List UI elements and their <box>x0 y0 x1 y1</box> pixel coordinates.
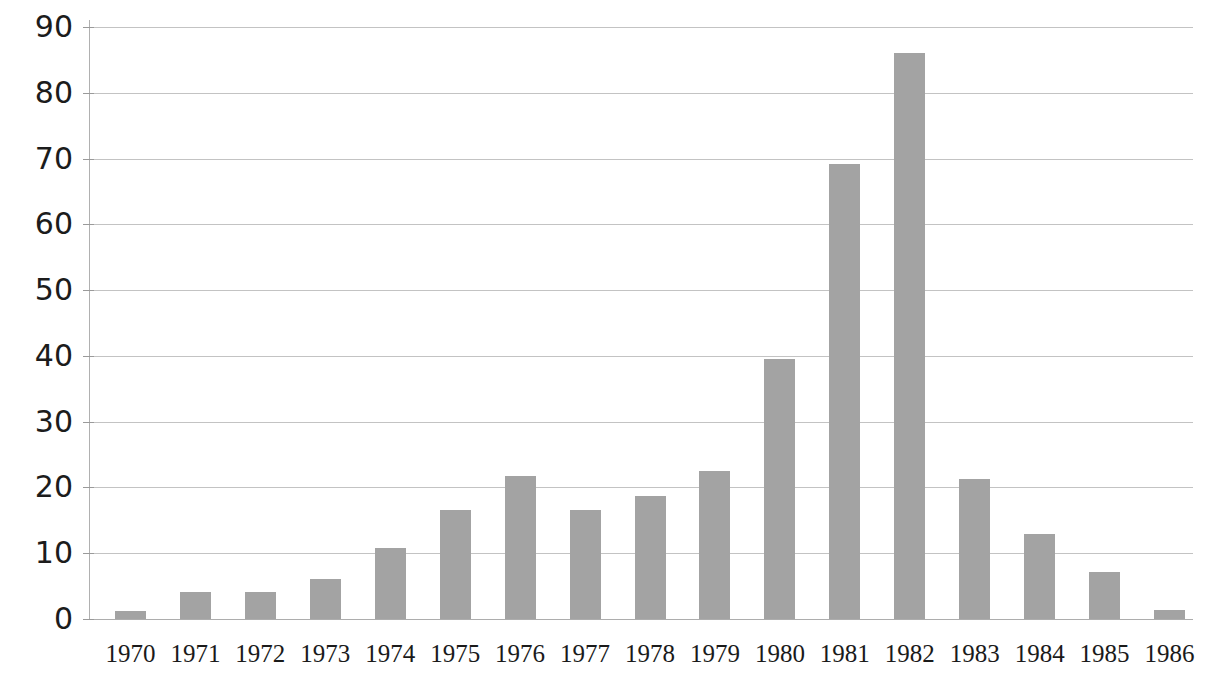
bar-1974[interactable] <box>375 548 406 619</box>
bar-1981[interactable] <box>829 164 860 619</box>
bar-1978[interactable] <box>635 496 666 619</box>
y-axis-label-30: 30 <box>35 407 73 437</box>
x-axis-label-1970: 1970 <box>98 640 163 668</box>
bar-chart: 0102030405060708090 19701971197219731974… <box>0 0 1219 686</box>
bar-1976[interactable] <box>505 476 536 619</box>
bar-series <box>89 27 1193 619</box>
x-axis-label-1982: 1982 <box>877 640 942 668</box>
x-axis-label-1978: 1978 <box>618 640 683 668</box>
x-axis-label-1979: 1979 <box>682 640 747 668</box>
x-axis-label-1985: 1985 <box>1072 640 1137 668</box>
y-axis-label-0: 0 <box>54 604 73 634</box>
x-axis-label-1976: 1976 <box>488 640 553 668</box>
bar-1980[interactable] <box>764 359 795 619</box>
bar-1973[interactable] <box>310 579 341 619</box>
y-axis-label-40: 40 <box>35 341 73 371</box>
x-axis-label-1980: 1980 <box>747 640 812 668</box>
y-axis-label-50: 50 <box>35 275 73 305</box>
y-axis-label-70: 70 <box>35 144 73 174</box>
x-axis-label-1986: 1986 <box>1137 640 1202 668</box>
y-axis-label-60: 60 <box>35 209 73 239</box>
x-axis-label-1972: 1972 <box>228 640 293 668</box>
bar-1975[interactable] <box>440 510 471 619</box>
gridline-0 <box>89 619 1193 620</box>
x-axis-label-1984: 1984 <box>1007 640 1072 668</box>
x-axis-label-1971: 1971 <box>163 640 228 668</box>
bar-1970[interactable] <box>115 611 146 619</box>
x-axis-label-1974: 1974 <box>358 640 423 668</box>
y-axis-label-80: 80 <box>35 78 73 108</box>
x-axis-label-1973: 1973 <box>293 640 358 668</box>
y-axis-label-20: 20 <box>35 472 73 502</box>
x-axis-tick-labels: 1970197119721973197419751976197719781979… <box>89 640 1193 680</box>
y-axis-tick-0 <box>83 619 94 620</box>
bar-1983[interactable] <box>959 479 990 619</box>
bar-1985[interactable] <box>1089 572 1120 619</box>
bar-1984[interactable] <box>1024 534 1055 620</box>
y-axis-label-90: 90 <box>35 12 73 42</box>
bar-1977[interactable] <box>570 510 601 619</box>
bar-1979[interactable] <box>699 471 730 619</box>
x-axis-label-1983: 1983 <box>942 640 1007 668</box>
x-axis-label-1975: 1975 <box>423 640 488 668</box>
bar-1986[interactable] <box>1154 610 1185 619</box>
bar-1971[interactable] <box>180 592 211 619</box>
bar-1982[interactable] <box>894 53 925 619</box>
y-axis-label-10: 10 <box>35 538 73 568</box>
x-axis-label-1981: 1981 <box>812 640 877 668</box>
x-axis-label-1977: 1977 <box>553 640 618 668</box>
bar-1972[interactable] <box>245 592 276 619</box>
